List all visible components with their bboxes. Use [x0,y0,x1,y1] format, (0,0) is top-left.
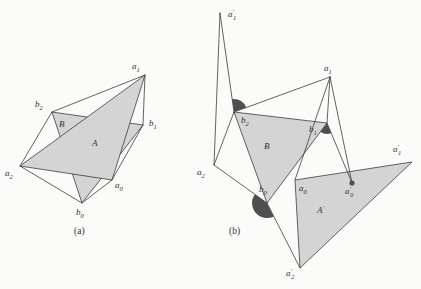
caption-b: (b) [229,226,240,237]
vertex-label-a1-b: a1 [324,63,332,75]
vertex-label-b0-a: b0 [76,207,85,219]
vertex-label-a1-a: a1 [132,61,140,73]
caption-a: (a) [74,226,85,237]
triangle-B-label-b: B [264,141,270,151]
edge-b2-a1-b [234,77,330,112]
edge-a2-b2-b [214,112,234,165]
edge-b1-a1-a [143,75,145,125]
triangle-B-label-a: B [59,119,65,129]
panel-a: BAa1b2b1a2a0b0(a) [5,61,157,237]
figure-page: BAa1b2b1a2a0b0(a)BA′a′1a1b2b1a2a0a′0b0a′… [0,0,421,289]
figure-canvas: BAa1b2b1a2a0b0(a)BA′a′1a1b2b1a2a0a′0b0a′… [0,0,421,289]
triangle-A-a [20,75,145,180]
triangle-A-prime-b [295,162,412,268]
vertex-label-aprime1-b: a′1 [393,143,401,156]
triangle-A-label-a: A [91,138,98,148]
edge-b0-ap2-b [267,203,300,268]
vertex-label-a2-b: a2 [197,167,206,179]
vertex-label-aprime2-b: a′2 [286,267,295,280]
edge-T-a2-b [214,13,220,165]
vertex-label-a2-a: a2 [5,168,14,180]
edge-T-b2-b [220,13,234,112]
angle-wedge-b2-b [232,99,246,112]
vertex-label-b2-a: b2 [35,99,44,111]
edge-a1-ap0-b [330,77,352,183]
vertex-label-a0-a: a0 [115,180,124,192]
panel-b: BA′a′1a1b2b1a2a0a′0b0a′2a′1(b) [197,8,412,280]
vertex-label-b1-a: b1 [149,118,157,130]
vertex-label-aprime1-b: a′1 [228,8,236,21]
